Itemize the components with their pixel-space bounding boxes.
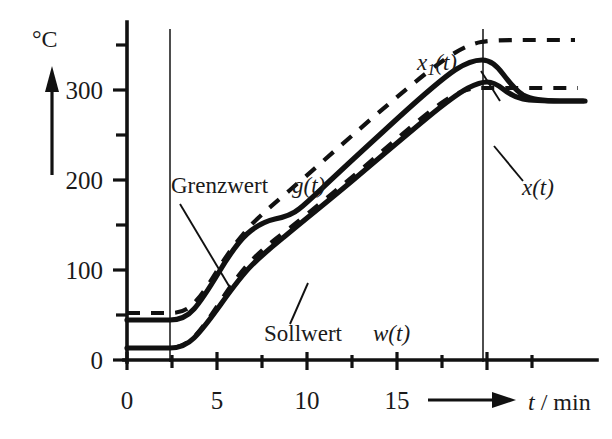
annotation-grenzwert-label: Grenzwert	[171, 173, 269, 198]
y-axis-unit-label: °C	[32, 26, 58, 52]
temperature-step-response-chart: 300 200 100 0 0 5 10 15 °C t / min	[0, 0, 612, 439]
x-tick-label-0: 0	[121, 387, 134, 414]
x-axis-tick-labels: 0 5 10 15	[121, 387, 410, 414]
x-tick-label-10: 10	[295, 387, 320, 414]
axis-unit-labels: °C t / min	[32, 26, 591, 415]
chart-figure: 300 200 100 0 0 5 10 15 °C t / min	[0, 0, 612, 439]
annotation-x1-symbol: x1(t)	[416, 50, 457, 78]
annotation-grenzwert-leader	[180, 204, 229, 286]
y-axis-ticks	[113, 45, 127, 360]
y-axis-direction-arrow-icon	[45, 66, 59, 175]
x-axis-direction-arrow-icon	[428, 392, 516, 408]
annotation-x-symbol: x(t)	[521, 175, 554, 200]
annotation-sollwert-symbol: w(t)	[373, 321, 410, 346]
y-tick-label-200: 200	[66, 167, 104, 194]
y-tick-label-100: 100	[66, 257, 104, 284]
x-tick-label-5: 5	[211, 387, 224, 414]
annotation-x-leader	[494, 146, 523, 181]
y-tick-label-0: 0	[91, 347, 104, 374]
annotation-grenzwert-symbol: g(t)	[292, 173, 325, 198]
y-axis-tick-labels: 300 200 100 0	[66, 77, 104, 374]
y-tick-label-300: 300	[66, 77, 104, 104]
annotation-sollwert-leader	[290, 283, 308, 324]
annotations: Grenzwert g(t) Sollwert w(t) x1(t) x(t)	[171, 50, 554, 346]
x-axis-unit-label: t / min	[528, 389, 591, 415]
x-tick-label-15: 15	[385, 387, 410, 414]
annotation-sollwert-label: Sollwert	[264, 321, 343, 346]
